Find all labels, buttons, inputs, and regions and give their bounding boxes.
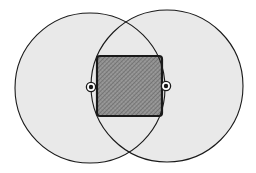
- overlapping-circles-diagram: [0, 0, 256, 173]
- right-center-marker-dot: [164, 84, 168, 88]
- left-center-marker-dot: [89, 85, 93, 89]
- square-crosshatch: [97, 56, 162, 116]
